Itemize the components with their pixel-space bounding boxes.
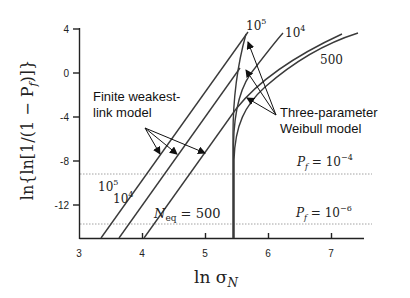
arrow-finite-2 [145,128,177,154]
x-tick-6: 6 [265,248,271,259]
y-tick-m8: -8 [60,156,69,167]
label-1e4-top: 104 [285,24,305,40]
arrow-finite-3 [145,128,205,153]
y-axis: 4 0 -4 -8 -12 [55,24,80,240]
weibull-label-line1: Three-parameter [280,105,378,120]
label-neq-500: Neq = 500 [153,206,220,223]
y-axis-title: ln{ln[1/(1 − Pf)]} [18,60,40,200]
weibull-1e4-curve [234,33,284,238]
label-500-top: 500 [320,53,343,67]
finite-label-line2: link model [93,105,152,120]
label-1e5-top: 105 [246,17,266,33]
x-tick-5: 5 [202,248,208,259]
finite-1e5-line [101,32,248,238]
y-tick-0: 0 [63,68,69,79]
weibull-1e5-curve [233,34,246,238]
label-pf-1e-4: Pf = 10−4 [296,153,353,171]
weibull-label-line2: Weibull model [280,121,362,136]
label-pf-1e-6: Pf = 10−6 [295,204,352,222]
y-tick-m4: -4 [60,112,69,123]
finite-label-line1: Finite weakest- [93,89,180,104]
x-axis-title: ln σN [194,267,238,290]
y-tick-m12: -12 [55,200,70,211]
x-tick-7: 7 [328,248,334,259]
arrow-weibull-3 [247,98,276,115]
label-1e4-left: 104 [113,190,133,206]
chart: 4 0 -4 -8 -12 3 4 5 6 7 Finite weakest- … [0,0,410,298]
y-tick-4: 4 [63,24,69,35]
arrow-finite-1 [145,128,160,154]
x-tick-4: 4 [139,248,145,259]
x-tick-3: 3 [76,248,82,259]
